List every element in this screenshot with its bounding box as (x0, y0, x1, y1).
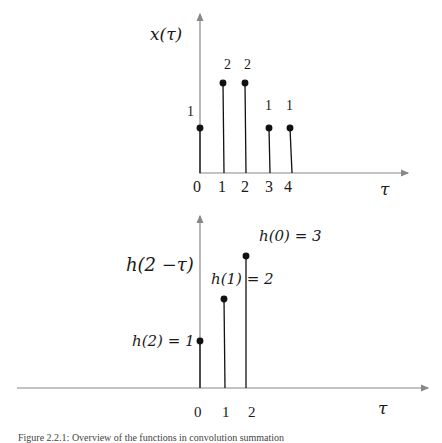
top-tick-4: 4 (284, 178, 292, 196)
top-tick-0: 0 (193, 178, 201, 196)
bottom-plot-xlabel: τ (378, 398, 387, 418)
top-tick-1: 1 (218, 178, 226, 196)
bottom-tick-0: 0 (194, 404, 202, 421)
top-tick-3: 3 (265, 178, 273, 196)
top-plot-ylabel: x(τ) (150, 24, 182, 44)
top-plot-stems (197, 80, 293, 173)
figure-caption: Figure 2.2.1: Overview of the functions … (18, 432, 284, 443)
top-value-label-4: 1 (286, 98, 293, 114)
annotation-h2: h(2) = 1 (132, 332, 195, 350)
annotation-h0: h(0) = 3 (259, 227, 322, 245)
bottom-plot-ylabel: h(2 −τ) (126, 254, 194, 275)
top-value-label-1: 2 (224, 57, 231, 73)
top-value-label-3: 1 (265, 98, 272, 114)
top-value-label-0: 1 (187, 104, 194, 120)
bottom-tick-1: 1 (222, 404, 230, 421)
bottom-tick-2: 2 (248, 404, 256, 421)
top-tick-2: 2 (241, 178, 249, 196)
top-plot-xlabel: τ (380, 179, 389, 199)
annotation-h1: h(1) = 2 (211, 270, 274, 288)
top-value-label-2: 2 (244, 57, 251, 73)
top-plot-axes (200, 14, 408, 174)
